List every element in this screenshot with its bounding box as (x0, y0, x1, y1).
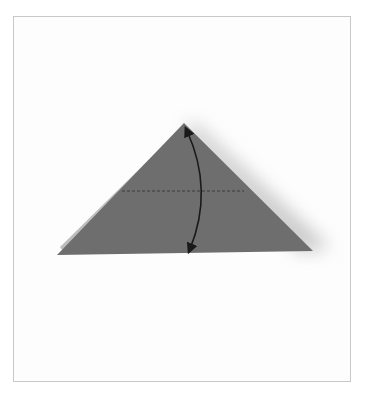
folded-triangle (57, 123, 313, 255)
origami-diagram (0, 0, 367, 394)
